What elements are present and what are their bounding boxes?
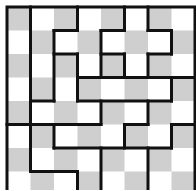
board-cell[interactable] [54, 148, 78, 172]
board-cell[interactable] [125, 54, 149, 78]
board-cell[interactable] [148, 54, 172, 78]
board-cell[interactable] [31, 172, 55, 191]
board-cell[interactable] [78, 78, 102, 102]
board-cell[interactable] [54, 101, 78, 125]
board-cell[interactable] [7, 101, 31, 125]
board-cell[interactable] [101, 31, 125, 55]
board-cell[interactable] [101, 125, 125, 149]
board-cell[interactable] [7, 54, 31, 78]
board-cell[interactable] [125, 78, 149, 102]
board-cell[interactable] [101, 172, 125, 191]
board-cell[interactable] [54, 31, 78, 55]
board-cell[interactable] [31, 125, 55, 149]
board-cell[interactable] [148, 101, 172, 125]
board-cell[interactable] [54, 172, 78, 191]
board-cell[interactable] [31, 101, 55, 125]
board-cell[interactable] [172, 125, 196, 149]
board-cell[interactable] [78, 172, 102, 191]
board-cell[interactable] [78, 125, 102, 149]
board-cell[interactable] [31, 31, 55, 55]
board-cell[interactable] [7, 148, 31, 172]
board-cell[interactable] [125, 31, 149, 55]
board-cell[interactable] [101, 148, 125, 172]
board-cell[interactable] [125, 125, 149, 149]
board-cell[interactable] [101, 101, 125, 125]
board-cell[interactable] [172, 78, 196, 102]
board-cell[interactable] [148, 148, 172, 172]
board-cell[interactable] [172, 101, 196, 125]
board-cell[interactable] [78, 7, 102, 31]
board-cell[interactable] [7, 31, 31, 55]
board-cell[interactable] [31, 7, 55, 31]
board-cell[interactable] [78, 101, 102, 125]
board-cell[interactable] [54, 78, 78, 102]
board-cell[interactable] [125, 172, 149, 191]
board-cell[interactable] [125, 101, 149, 125]
board-cell[interactable] [31, 54, 55, 78]
board-cell[interactable] [54, 125, 78, 149]
board-cell[interactable] [148, 125, 172, 149]
board-cell[interactable] [7, 172, 31, 191]
board-cell[interactable] [101, 78, 125, 102]
board-cell[interactable] [78, 54, 102, 78]
board-cell[interactable] [101, 54, 125, 78]
board-cell[interactable] [172, 172, 196, 191]
board-cell[interactable] [172, 148, 196, 172]
board-cell[interactable] [78, 31, 102, 55]
board-cell[interactable] [7, 78, 31, 102]
board-cell[interactable] [31, 78, 55, 102]
board-cell[interactable] [78, 148, 102, 172]
board-cell[interactable] [125, 7, 149, 31]
board-cell[interactable] [31, 148, 55, 172]
board-cell[interactable] [7, 125, 31, 149]
board-cell[interactable] [54, 7, 78, 31]
board-cell[interactable] [148, 7, 172, 31]
board-cell[interactable] [7, 7, 31, 31]
board-cell[interactable] [148, 78, 172, 102]
board-cell[interactable] [172, 54, 196, 78]
board-cell[interactable] [148, 31, 172, 55]
board-cell[interactable] [172, 7, 196, 31]
board-cell[interactable] [101, 7, 125, 31]
board-cell[interactable] [148, 172, 172, 191]
board-cell[interactable] [54, 54, 78, 78]
board-cell[interactable] [125, 148, 149, 172]
puzzle-board [0, 0, 196, 190]
board-cell[interactable] [172, 31, 196, 55]
